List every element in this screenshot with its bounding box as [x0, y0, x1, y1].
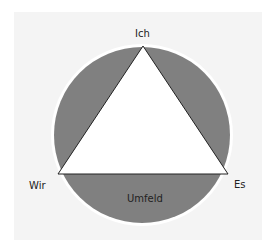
label-ich: Ich — [135, 29, 150, 39]
label-wir: Wir — [29, 181, 46, 191]
label-umfeld: Umfeld — [127, 194, 163, 204]
label-es: Es — [234, 180, 246, 190]
